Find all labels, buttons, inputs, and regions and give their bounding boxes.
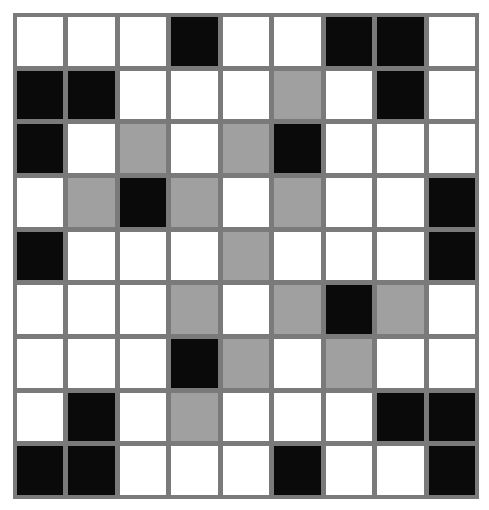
- grid-cell-r5-c1-white[interactable]: [68, 285, 114, 334]
- grid-cell-r8-c0-black[interactable]: [17, 446, 63, 495]
- grid-cell-r4-c1-white[interactable]: [68, 232, 114, 281]
- grid-cell-r5-c5-grey[interactable]: [274, 285, 320, 334]
- grid-cell-r8-c8-black[interactable]: [429, 446, 475, 495]
- grid-cell-r3-c3-grey[interactable]: [171, 178, 217, 227]
- grid-cell-r2-c5-black[interactable]: [274, 124, 320, 173]
- grid-cell-r3-c4-white[interactable]: [223, 178, 269, 227]
- grid-cell-r1-c3-white[interactable]: [171, 71, 217, 120]
- grid-cell-r6-c0-white[interactable]: [17, 339, 63, 388]
- grid-cell-r4-c0-black[interactable]: [17, 232, 63, 281]
- grid-cell-r0-c2-white[interactable]: [120, 17, 166, 66]
- grid-cell-r2-c8-white[interactable]: [429, 124, 475, 173]
- grid-cell-r2-c2-grey[interactable]: [120, 124, 166, 173]
- grid-cell-r0-c6-black[interactable]: [326, 17, 372, 66]
- grid-cell-r2-c0-black[interactable]: [17, 124, 63, 173]
- grid-cell-r6-c1-white[interactable]: [68, 339, 114, 388]
- grid-cell-r5-c0-white[interactable]: [17, 285, 63, 334]
- grid-cell-r4-c3-white[interactable]: [171, 232, 217, 281]
- grid-cell-r1-c6-white[interactable]: [326, 71, 372, 120]
- grid-cell-r5-c2-white[interactable]: [120, 285, 166, 334]
- grid-cell-r3-c2-black[interactable]: [120, 178, 166, 227]
- grid-cell-r2-c3-white[interactable]: [171, 124, 217, 173]
- grid-cell-r7-c5-white[interactable]: [274, 393, 320, 442]
- grid-cell-r8-c4-white[interactable]: [223, 446, 269, 495]
- grid-cell-r6-c6-grey[interactable]: [326, 339, 372, 388]
- grid-cell-r1-c1-black[interactable]: [68, 71, 114, 120]
- grid-cell-r5-c4-white[interactable]: [223, 285, 269, 334]
- grid-cell-r1-c7-black[interactable]: [377, 71, 423, 120]
- grid-cell-r7-c7-black[interactable]: [377, 393, 423, 442]
- grid-cell-r3-c8-black[interactable]: [429, 178, 475, 227]
- grid-cell-r6-c7-white[interactable]: [377, 339, 423, 388]
- grid-cell-r1-c2-white[interactable]: [120, 71, 166, 120]
- grid-cell-r4-c6-white[interactable]: [326, 232, 372, 281]
- grid-cell-r7-c8-black[interactable]: [429, 393, 475, 442]
- grid-cell-r2-c6-white[interactable]: [326, 124, 372, 173]
- grid-cell-r0-c5-white[interactable]: [274, 17, 320, 66]
- grid-cell-r1-c8-white[interactable]: [429, 71, 475, 120]
- grid-cell-r2-c7-white[interactable]: [377, 124, 423, 173]
- grid-cell-r5-c8-white[interactable]: [429, 285, 475, 334]
- grid-cell-r4-c2-white[interactable]: [120, 232, 166, 281]
- grid-cell-r7-c4-white[interactable]: [223, 393, 269, 442]
- grid-cell-r8-c6-white[interactable]: [326, 446, 372, 495]
- grid-cell-r7-c1-black[interactable]: [68, 393, 114, 442]
- grid-cell-r3-c0-white[interactable]: [17, 178, 63, 227]
- grid-cell-r4-c8-black[interactable]: [429, 232, 475, 281]
- grid-cell-r7-c3-grey[interactable]: [171, 393, 217, 442]
- grid-cell-r0-c4-white[interactable]: [223, 17, 269, 66]
- grid-cell-r3-c5-grey[interactable]: [274, 178, 320, 227]
- grid-cell-r0-c8-white[interactable]: [429, 17, 475, 66]
- grid-cell-r0-c7-black[interactable]: [377, 17, 423, 66]
- grid-cell-r1-c5-grey[interactable]: [274, 71, 320, 120]
- grid-cell-r8-c7-white[interactable]: [377, 446, 423, 495]
- grid-cell-r1-c4-white[interactable]: [223, 71, 269, 120]
- grid-cell-r8-c2-white[interactable]: [120, 446, 166, 495]
- grid-cell-r1-c0-black[interactable]: [17, 71, 63, 120]
- grid-cell-r8-c3-white[interactable]: [171, 446, 217, 495]
- grid-cell-r5-c3-grey[interactable]: [171, 285, 217, 334]
- grid-cell-r0-c0-white[interactable]: [17, 17, 63, 66]
- grid-cell-r2-c1-white[interactable]: [68, 124, 114, 173]
- grid-cell-r3-c1-grey[interactable]: [68, 178, 114, 227]
- grid-cell-r8-c1-black[interactable]: [68, 446, 114, 495]
- grid-cell-r0-c3-black[interactable]: [171, 17, 217, 66]
- grid-cell-r4-c4-grey[interactable]: [223, 232, 269, 281]
- grid-cell-r7-c0-white[interactable]: [17, 393, 63, 442]
- grid-cell-r7-c2-white[interactable]: [120, 393, 166, 442]
- grid-cell-r6-c4-grey[interactable]: [223, 339, 269, 388]
- puzzle-grid: [13, 13, 479, 499]
- grid-cell-r5-c6-black[interactable]: [326, 285, 372, 334]
- grid-cell-r6-c8-white[interactable]: [429, 339, 475, 388]
- grid-cell-r4-c5-white[interactable]: [274, 232, 320, 281]
- grid-cell-r7-c6-white[interactable]: [326, 393, 372, 442]
- grid-cell-r5-c7-grey[interactable]: [377, 285, 423, 334]
- grid-cell-r4-c7-white[interactable]: [377, 232, 423, 281]
- grid-cell-r8-c5-black[interactable]: [274, 446, 320, 495]
- grid-cell-r3-c6-white[interactable]: [326, 178, 372, 227]
- grid-cell-r6-c2-white[interactable]: [120, 339, 166, 388]
- grid-cell-r0-c1-white[interactable]: [68, 17, 114, 66]
- grid-cell-r3-c7-white[interactable]: [377, 178, 423, 227]
- grid-cell-r2-c4-grey[interactable]: [223, 124, 269, 173]
- grid-cell-r6-c3-black[interactable]: [171, 339, 217, 388]
- grid-cell-r6-c5-white[interactable]: [274, 339, 320, 388]
